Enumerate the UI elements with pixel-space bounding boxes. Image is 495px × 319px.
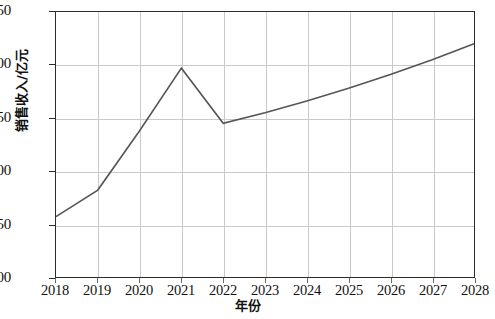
y-tick-label: 400: [0, 56, 11, 71]
y-tick-mark: [49, 64, 55, 65]
y-tick-label: 450: [0, 3, 11, 18]
y-axis: 200250300350400450: [0, 0, 495, 319]
y-axis-title: 销售收入/亿元: [15, 36, 28, 146]
x-tick-label: 2024: [284, 283, 330, 298]
x-tick-label: 2018: [32, 283, 78, 298]
y-tick-mark: [49, 11, 55, 12]
line-chart: 200250300350400450 201820192020202120222…: [0, 0, 495, 319]
x-axis-title: 年份: [0, 299, 495, 312]
x-tick-label: 2027: [410, 283, 456, 298]
y-tick-label: 250: [0, 217, 11, 232]
x-tick-label: 2023: [242, 283, 288, 298]
x-tick-label: 2028: [452, 283, 495, 298]
x-tick-label: 2026: [368, 283, 414, 298]
y-tick-mark: [49, 171, 55, 172]
x-tick-label: 2019: [74, 283, 120, 298]
y-tick-mark: [49, 118, 55, 119]
x-tick-label: 2022: [200, 283, 246, 298]
x-tick-label: 2025: [326, 283, 372, 298]
y-tick-label: 300: [0, 163, 11, 178]
y-tick-mark: [49, 225, 55, 226]
y-tick-label: 200: [0, 270, 11, 285]
y-tick-label: 350: [0, 110, 11, 125]
x-tick-label: 2021: [158, 283, 204, 298]
x-tick-label: 2020: [116, 283, 162, 298]
